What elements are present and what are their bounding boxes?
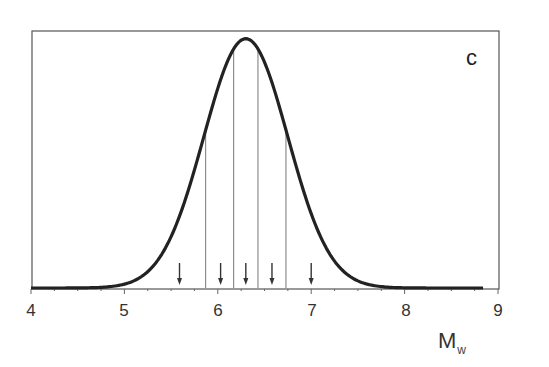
down-arrow-icon — [218, 263, 223, 285]
tick-label: 7 — [307, 301, 316, 320]
plot-frame — [32, 31, 499, 289]
arrow-markers — [177, 263, 314, 285]
chart: 4 5 6 7 8 9 c Mw — [0, 0, 549, 367]
panel-label: c — [466, 45, 477, 70]
down-arrow-icon — [177, 263, 182, 285]
down-arrow-icon — [269, 263, 274, 285]
down-arrow-icon — [309, 263, 314, 285]
tick-label: 4 — [26, 301, 35, 320]
tick-label: 8 — [401, 301, 410, 320]
tick-label: 5 — [119, 301, 128, 320]
distribution-curve — [31, 39, 483, 288]
down-arrow-icon — [243, 263, 248, 285]
tick-label: 9 — [493, 301, 502, 320]
x-tick-labels: 4 5 6 7 8 9 — [26, 301, 502, 320]
tick-label: 6 — [213, 301, 222, 320]
x-axis-title: Mw — [438, 328, 466, 357]
minor-ticks — [31, 289, 498, 294]
